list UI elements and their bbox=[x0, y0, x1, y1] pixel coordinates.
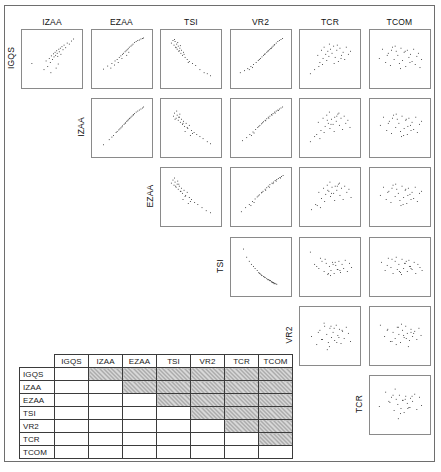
data-point bbox=[137, 111, 138, 112]
data-point bbox=[336, 342, 337, 343]
data-point bbox=[62, 46, 63, 47]
data-point bbox=[412, 336, 413, 337]
matrix-cell-tcom-ezaa[interactable] bbox=[123, 446, 157, 459]
matrix-cell-tcom-igqs[interactable] bbox=[55, 446, 89, 459]
matrix-cell-tcr-ezaa[interactable] bbox=[123, 433, 157, 446]
matrix-cell-igqs-tcr[interactable] bbox=[225, 368, 259, 381]
scatter-panel-izaa-vs-tsi[interactable] bbox=[160, 98, 222, 158]
data-point bbox=[403, 135, 404, 136]
scatter-panel-ezaa-vs-tcr[interactable] bbox=[299, 167, 361, 227]
matrix-cell-tcr-vr2[interactable] bbox=[191, 433, 225, 446]
matrix-cell-izaa-ezaa[interactable] bbox=[123, 381, 157, 394]
matrix-cell-tsi-ezaa[interactable] bbox=[123, 407, 157, 420]
matrix-cell-vr2-vr2[interactable] bbox=[191, 420, 225, 433]
scatter-panel-ezaa-vs-tcom[interactable] bbox=[369, 167, 431, 227]
matrix-cell-vr2-tcom[interactable] bbox=[259, 420, 293, 433]
matrix-cell-igqs-igqs[interactable] bbox=[55, 368, 89, 381]
scatter-panel-tsi-vs-tcr[interactable] bbox=[299, 237, 361, 297]
data-point bbox=[333, 193, 334, 194]
data-point bbox=[421, 405, 422, 406]
scatter-panel-izaa-vs-tcr[interactable] bbox=[299, 98, 361, 158]
matrix-cell-vr2-tcr[interactable] bbox=[225, 420, 259, 433]
data-point bbox=[411, 192, 412, 193]
scatter-panel-tsi-vs-tcom[interactable] bbox=[369, 237, 431, 297]
scatter-panel-izaa-vs-tcom[interactable] bbox=[369, 98, 431, 158]
data-point bbox=[53, 53, 54, 54]
matrix-cell-vr2-ezaa[interactable] bbox=[123, 420, 157, 433]
matrix-cell-ezaa-vr2[interactable] bbox=[191, 394, 225, 407]
matrix-cell-vr2-igqs[interactable] bbox=[55, 420, 89, 433]
data-point bbox=[341, 188, 342, 189]
matrix-cell-tcr-tcom[interactable] bbox=[259, 433, 293, 446]
matrix-cell-ezaa-tsi[interactable] bbox=[157, 394, 191, 407]
matrix-cell-tcom-tsi[interactable] bbox=[157, 446, 191, 459]
matrix-cell-tcom-tcom[interactable] bbox=[259, 446, 293, 459]
scatter-panel-igqs-vs-vr2[interactable] bbox=[230, 29, 292, 89]
data-point bbox=[414, 331, 415, 332]
scatter-panel-igqs-vs-ezaa[interactable] bbox=[91, 29, 153, 89]
scatter-panel-vr2-vs-tcom[interactable] bbox=[369, 306, 431, 366]
data-point bbox=[258, 273, 259, 274]
matrix-cell-ezaa-izaa[interactable] bbox=[89, 394, 123, 407]
matrix-cell-tcr-tsi[interactable] bbox=[157, 433, 191, 446]
matrix-cell-vr2-izaa[interactable] bbox=[89, 420, 123, 433]
scatter-panel-tcr-vs-tcom[interactable] bbox=[369, 375, 431, 435]
matrix-cell-tcom-tcr[interactable] bbox=[225, 446, 259, 459]
data-point bbox=[111, 137, 112, 138]
scatter-panel-tsi-vs-vr2[interactable] bbox=[230, 237, 292, 297]
matrix-col-header-tsi: TSI bbox=[157, 355, 191, 368]
scatter-panel-izaa-vs-ezaa[interactable] bbox=[91, 98, 153, 158]
data-point bbox=[181, 119, 182, 120]
scatter-panel-igqs-vs-izaa[interactable] bbox=[21, 29, 83, 89]
matrix-cell-izaa-tsi[interactable] bbox=[157, 381, 191, 394]
matrix-cell-tsi-izaa[interactable] bbox=[89, 407, 123, 420]
data-point bbox=[135, 112, 136, 113]
matrix-cell-izaa-igqs[interactable] bbox=[55, 381, 89, 394]
matrix-cell-tsi-tsi[interactable] bbox=[157, 407, 191, 420]
data-point bbox=[340, 48, 341, 49]
scatter-panel-ezaa-vs-tsi[interactable] bbox=[160, 167, 222, 227]
data-point bbox=[275, 43, 276, 44]
matrix-cell-vr2-tsi[interactable] bbox=[157, 420, 191, 433]
matrix-cell-izaa-izaa[interactable] bbox=[89, 381, 123, 394]
matrix-cell-igqs-tcom[interactable] bbox=[259, 368, 293, 381]
matrix-cell-tsi-igqs[interactable] bbox=[55, 407, 89, 420]
data-point bbox=[347, 120, 348, 121]
data-point bbox=[261, 274, 262, 275]
matrix-cell-tsi-vr2[interactable] bbox=[191, 407, 225, 420]
matrix-cell-ezaa-tcom[interactable] bbox=[259, 394, 293, 407]
data-point bbox=[57, 53, 58, 54]
data-point bbox=[336, 325, 337, 326]
matrix-cell-ezaa-ezaa[interactable] bbox=[123, 394, 157, 407]
matrix-cell-izaa-tcr[interactable] bbox=[225, 381, 259, 394]
data-point bbox=[410, 398, 411, 399]
scatter-panel-igqs-vs-tcom[interactable] bbox=[369, 29, 431, 89]
scatter-panel-izaa-vs-vr2[interactable] bbox=[230, 98, 292, 158]
matrix-cell-igqs-ezaa[interactable] bbox=[123, 368, 157, 381]
scatter-panel-vr2-vs-tcr[interactable] bbox=[299, 306, 361, 366]
data-point bbox=[378, 406, 379, 407]
matrix-cell-igqs-tsi[interactable] bbox=[157, 368, 191, 381]
data-point bbox=[331, 326, 332, 327]
matrix-cell-tcom-vr2[interactable] bbox=[191, 446, 225, 459]
matrix-cell-ezaa-tcr[interactable] bbox=[225, 394, 259, 407]
data-point bbox=[135, 41, 136, 42]
data-point bbox=[319, 62, 320, 63]
matrix-cell-tcr-igqs[interactable] bbox=[55, 433, 89, 446]
data-point bbox=[127, 48, 128, 49]
scatter-panel-igqs-vs-tcr[interactable] bbox=[299, 29, 361, 89]
matrix-cell-tcom-izaa[interactable] bbox=[89, 446, 123, 459]
matrix-cell-ezaa-igqs[interactable] bbox=[55, 394, 89, 407]
data-point bbox=[384, 336, 385, 337]
matrix-cell-izaa-vr2[interactable] bbox=[191, 381, 225, 394]
data-point bbox=[382, 49, 383, 50]
matrix-cell-tsi-tcr[interactable] bbox=[225, 407, 259, 420]
scatter-panel-igqs-vs-tsi[interactable] bbox=[160, 29, 222, 89]
matrix-cell-igqs-izaa[interactable] bbox=[89, 368, 123, 381]
matrix-cell-tcr-tcr[interactable] bbox=[225, 433, 259, 446]
matrix-cell-tsi-tcom[interactable] bbox=[259, 407, 293, 420]
scatter-panel-ezaa-vs-vr2[interactable] bbox=[230, 167, 292, 227]
matrix-cell-izaa-tcom[interactable] bbox=[259, 381, 293, 394]
matrix-cell-tcr-izaa[interactable] bbox=[89, 433, 123, 446]
matrix-cell-igqs-vr2[interactable] bbox=[191, 368, 225, 381]
